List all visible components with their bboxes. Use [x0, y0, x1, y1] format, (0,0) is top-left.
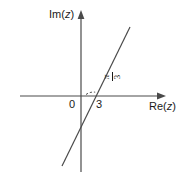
x-intercept-label: 3 [96, 99, 102, 110]
real-axis-label: Re(z) [149, 101, 176, 112]
imaginary-axis-label-text: Im( [49, 8, 65, 20]
imaginary-axis [78, 10, 85, 172]
real-axis [20, 93, 166, 100]
angle-arc [86, 92, 95, 94]
complex-plane-figure: Im(z) Re(z) 0 3 π 3 [0, 0, 180, 181]
angle-label: π 3 [99, 69, 125, 85]
imaginary-axis-label: Im(z) [49, 9, 74, 20]
real-axis-label-close: ) [172, 100, 176, 112]
right-arrow-icon [157, 93, 166, 100]
angle-fraction: π 3 [99, 69, 125, 85]
up-arrow-icon [78, 10, 85, 19]
origin-label: 0 [69, 99, 75, 110]
imaginary-axis-label-close: ) [70, 8, 74, 20]
angle-denominator: 3 [113, 74, 122, 81]
figure-canvas [0, 0, 180, 181]
angle-numerator: π [102, 74, 111, 81]
real-axis-label-text: Re( [149, 100, 167, 112]
